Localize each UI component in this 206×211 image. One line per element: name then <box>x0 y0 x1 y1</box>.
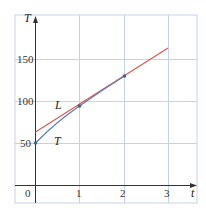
curve-label-L: L <box>54 98 62 112</box>
y-axis-label: T <box>24 11 32 25</box>
axes <box>15 20 193 203</box>
x-tick-0: 0 <box>25 187 31 199</box>
data-point-t1 <box>78 104 82 108</box>
y-tick-150: 150 <box>17 53 34 65</box>
data-point-t0 <box>34 141 38 145</box>
vertical-gridlines <box>80 15 169 203</box>
x-tick-2: 2 <box>120 187 126 199</box>
y-tick-100: 100 <box>17 95 34 107</box>
y-axis-arrow-icon <box>33 16 38 23</box>
data-point-t2 <box>123 74 127 78</box>
chart: T t 150 100 50 0 1 2 3 L T <box>0 0 206 211</box>
x-tick-3: 3 <box>164 187 170 199</box>
curve-label-T: T <box>54 134 62 148</box>
horizontal-gridlines <box>15 60 197 144</box>
plot-frame <box>15 15 197 203</box>
x-tick-1: 1 <box>76 187 82 199</box>
y-tick-50: 50 <box>20 137 32 149</box>
x-axis-label: t <box>191 186 195 200</box>
